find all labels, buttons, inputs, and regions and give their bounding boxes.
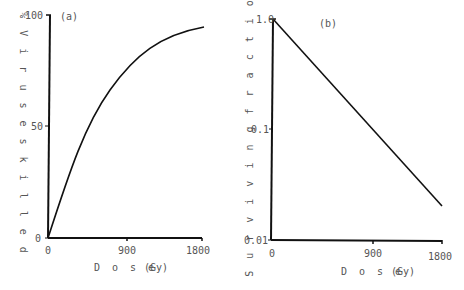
chart-b-ytick-label-1: 1.0 bbox=[256, 14, 274, 25]
chart-b-xtick-label-0: 0 bbox=[269, 248, 275, 259]
figure: 100 50 0 0 900 1800 (a) D o s e (Gy) % V… bbox=[0, 0, 464, 290]
chart-b-x-axis bbox=[271, 240, 442, 241]
chart-b-survival-line bbox=[273, 19, 442, 206]
chart-a-panel-label: (a) bbox=[60, 11, 78, 22]
chart-b-xtick-label-1800: 1800 bbox=[428, 251, 452, 262]
chart-a-ytick-label-50: 50 bbox=[31, 121, 43, 132]
chart-a-xtick-label-900: 900 bbox=[118, 245, 136, 256]
chart-a: 100 50 0 0 900 1800 (a) D o s e (Gy) % V… bbox=[18, 10, 210, 273]
chart-a-x-label-unit: (Gy) bbox=[144, 262, 168, 273]
chart-b-panel-label: (b) bbox=[319, 18, 337, 29]
chart-b-xtick-label-900: 900 bbox=[364, 248, 382, 259]
chart-b-y-label: S u r v i v i n g f r a c t i o n bbox=[244, 0, 255, 277]
chart-a-curve bbox=[48, 27, 204, 238]
chart-a-ytick-label-0: 0 bbox=[35, 233, 41, 244]
chart-b: 1.0 0.1 0.01 0 900 1800 (b) D o s e (Gy)… bbox=[244, 0, 452, 277]
chart-a-y-label: % V i r u s e s k i l l e d bbox=[18, 12, 29, 256]
chart-b-x-label-unit: (Gy) bbox=[391, 266, 415, 277]
chart-a-xtick-label-0: 0 bbox=[45, 245, 51, 256]
chart-a-xtick-label-1800: 1800 bbox=[186, 245, 210, 256]
chart-b-y-axis bbox=[272, 19, 294, 240]
